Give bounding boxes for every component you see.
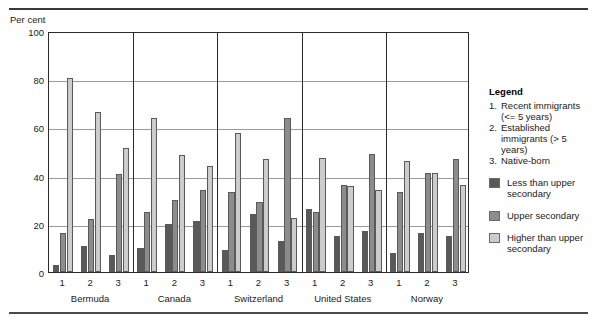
bar (390, 253, 396, 272)
bar (200, 190, 206, 272)
legend-series-item: Higher than upper secondary (489, 232, 593, 254)
bar (347, 186, 353, 272)
bar (460, 185, 466, 272)
bar (425, 173, 431, 272)
bar (432, 173, 438, 272)
legend-numbered-item: 1.Recent immigrants (<= 5 years) (489, 100, 593, 122)
x-axis-group-number: 1 (59, 277, 64, 288)
bar (404, 161, 410, 272)
legend-numbered-list: 1.Recent immigrants (<= 5 years)2.Establ… (489, 100, 593, 166)
bar (362, 231, 368, 272)
y-axis-tick-label: 60 (33, 125, 44, 135)
legend-series-label: Less than upper secondary (507, 177, 593, 199)
bar (172, 200, 178, 272)
legend-series-label: Higher than upper secondary (507, 232, 593, 254)
legend-series-item: Upper secondary (489, 210, 593, 221)
legend-color-swatch (489, 178, 500, 188)
bar (151, 118, 157, 272)
bar (418, 233, 424, 272)
bar (228, 192, 234, 272)
bar (222, 250, 228, 272)
bar (341, 185, 347, 272)
legend-series-label: Upper secondary (507, 210, 579, 221)
x-axis-group-number: 3 (284, 277, 289, 288)
x-axis-group-number: 2 (87, 277, 92, 288)
x-axis-group-number: 3 (200, 277, 205, 288)
y-axis-title: Per cent (10, 14, 45, 25)
legend-item-number: 3. (489, 155, 501, 166)
bar (95, 112, 101, 272)
legend-series-item: Less than upper secondary (489, 177, 593, 199)
bar (67, 78, 73, 272)
bar (319, 158, 325, 272)
bar (284, 118, 290, 272)
x-axis-group-number: 2 (340, 277, 345, 288)
chart-figure: Per cent 020406080100 123123123123123Ber… (0, 0, 597, 323)
bar (306, 209, 312, 272)
x-axis-group-number: 1 (312, 277, 317, 288)
legend-color-swatch (489, 211, 500, 221)
plot-area: 020406080100 (48, 32, 469, 273)
legend-item-number: 2. (489, 122, 501, 155)
x-axis-country-label: United States (314, 293, 371, 304)
bar (193, 221, 199, 272)
y-axis-tick-label: 0 (39, 269, 44, 279)
bar (278, 241, 284, 272)
legend-title: Legend (489, 86, 593, 97)
y-axis-tick-label: 80 (33, 76, 44, 86)
x-axis-group-number: 2 (172, 277, 177, 288)
bar-series-layer (49, 33, 468, 272)
legend-numbered-item: 2.Established immigrants (> 5 years) (489, 122, 593, 155)
bottom-rule (9, 312, 588, 314)
bar (446, 236, 452, 272)
legend: Legend 1.Recent immigrants (<= 5 years)2… (489, 86, 593, 254)
x-axis-group-number: 3 (452, 277, 457, 288)
bar (334, 236, 340, 272)
bar (81, 246, 87, 273)
bar (250, 214, 256, 272)
bar (53, 265, 59, 272)
y-axis-tick-label: 40 (33, 173, 44, 183)
legend-numbered-item: 3.Native-born (489, 155, 593, 166)
bar (453, 159, 459, 272)
bar (88, 219, 94, 272)
y-axis-tick-label: 20 (33, 221, 44, 231)
bar (263, 159, 269, 272)
x-axis-country-label: Switzerland (234, 293, 283, 304)
bar (369, 154, 375, 272)
bar (179, 155, 185, 272)
x-axis-group-number: 2 (424, 277, 429, 288)
bar (207, 166, 213, 272)
x-axis-group-number: 1 (396, 277, 401, 288)
x-axis-country-label: Bermuda (71, 293, 110, 304)
bar (375, 190, 381, 272)
bar (235, 133, 241, 272)
bar (144, 212, 150, 272)
x-axis-group-number: 1 (144, 277, 149, 288)
bar (116, 174, 122, 272)
legend-item-number: 1. (489, 100, 501, 122)
bar (109, 255, 115, 272)
x-axis-group-number: 2 (256, 277, 261, 288)
bar (397, 192, 403, 272)
bar (60, 233, 66, 272)
y-axis-tick-label: 100 (28, 28, 44, 38)
bar (165, 224, 171, 272)
x-axis-group-number: 3 (368, 277, 373, 288)
legend-item-text: Recent immigrants (<= 5 years) (501, 100, 593, 122)
bar (256, 202, 262, 272)
x-axis-country-label: Canada (158, 293, 191, 304)
legend-color-swatch (489, 233, 500, 243)
x-axis-country-label: Norway (411, 293, 443, 304)
x-axis-group-number: 1 (228, 277, 233, 288)
legend-item-text: Established immigrants (> 5 years) (501, 122, 593, 155)
legend-series-list: Less than upper secondaryUpper secondary… (489, 177, 593, 254)
legend-item-text: Native-born (501, 155, 593, 166)
bar (123, 148, 129, 272)
bar (291, 218, 297, 272)
bar (313, 212, 319, 272)
x-axis-group-number: 3 (116, 277, 121, 288)
top-rule (9, 8, 588, 10)
bar (137, 248, 143, 272)
